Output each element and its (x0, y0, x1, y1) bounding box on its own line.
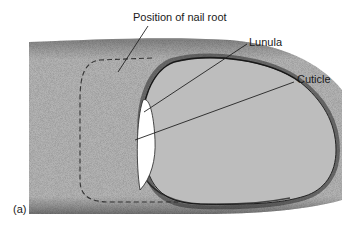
nail-root-label: Position of nail root (133, 11, 227, 23)
cuticle-label: Cuticle (297, 73, 331, 85)
panel-label: (a) (13, 203, 26, 215)
nail-illustration (0, 0, 348, 227)
lunula-label: Lunula (249, 36, 282, 48)
nail-diagram: Position of nail root Lunula Cuticle (a) (0, 0, 348, 227)
